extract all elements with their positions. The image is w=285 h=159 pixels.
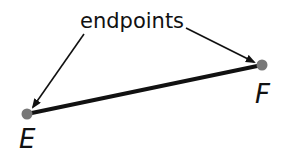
point-e xyxy=(22,109,33,120)
label-e: E xyxy=(19,124,36,154)
point-f xyxy=(257,60,268,71)
segment-diagram: endpoints E F xyxy=(0,0,285,159)
arrow-to-e xyxy=(33,34,84,107)
endpoints-label: endpoints xyxy=(80,9,184,33)
diagram-svg: endpoints E F xyxy=(0,0,285,159)
arrow-to-f xyxy=(186,28,254,62)
segment-ef xyxy=(27,65,262,114)
label-f: F xyxy=(255,79,271,109)
